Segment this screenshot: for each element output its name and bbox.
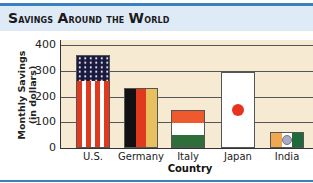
y-tick-0: 0	[26, 141, 56, 154]
germany-gold	[146, 89, 157, 147]
chart-title: Savings Around the World	[8, 10, 170, 26]
bar-india	[270, 132, 304, 148]
x-tick-japan: Japan	[213, 151, 263, 162]
x-axis-label: Country	[150, 163, 230, 174]
x-tick-germany: Germany	[116, 151, 166, 162]
x-tick-italy: Italy	[163, 151, 213, 162]
bar-germany	[124, 88, 158, 148]
italy-red	[172, 111, 204, 123]
y-axis-label: Monthly Savings(in dollars)	[16, 50, 38, 140]
india-saffron	[271, 133, 282, 147]
bar-japan	[221, 72, 255, 148]
x-tick-india: India	[262, 151, 312, 162]
germany-black	[125, 89, 136, 147]
germany-red	[136, 89, 147, 147]
us-flag-stripes	[77, 81, 109, 147]
italy-green	[172, 135, 204, 147]
bar-us	[76, 55, 110, 148]
india-green	[292, 133, 303, 147]
x-axis	[60, 148, 313, 149]
y-axis	[60, 40, 61, 148]
india-chakra-icon	[282, 135, 292, 145]
us-flag-canton	[77, 56, 109, 81]
footer-rule	[0, 180, 313, 182]
x-tick-us: U.S.	[68, 151, 118, 162]
gridline-400	[60, 45, 313, 46]
bar-italy	[171, 110, 205, 148]
japan-sun-disc	[232, 104, 244, 116]
italy-white	[172, 123, 204, 135]
